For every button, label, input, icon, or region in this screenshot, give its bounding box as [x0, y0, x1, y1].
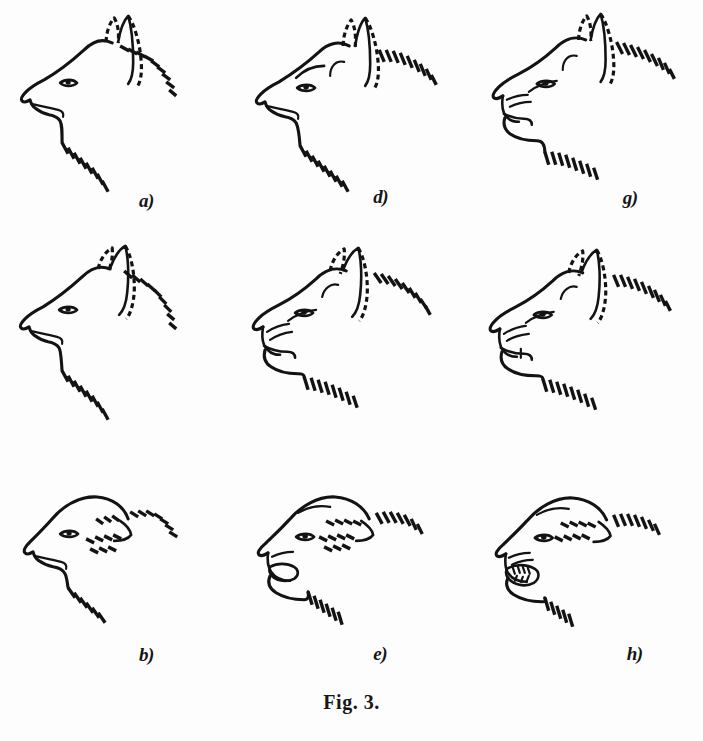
nose-wrinkles-g: [507, 95, 531, 107]
nose-wrinkle-f: [272, 552, 293, 557]
forehead-arc-d: [330, 62, 344, 76]
dog-head-f: [234, 457, 468, 686]
mouth-open-f: [270, 564, 298, 581]
eye-a: [60, 79, 77, 86]
ear-near-a: [106, 18, 118, 43]
brow-furrows-e: [288, 284, 338, 320]
nose-wrinkles-i: [509, 553, 533, 565]
panel-a: a): [0, 0, 234, 229]
back-hackles-h: [613, 275, 670, 311]
neck-hackles-f: [308, 592, 342, 625]
ear-flat-hatch-f: [319, 520, 361, 551]
back-hackles-e: [375, 273, 431, 315]
neck-hackles-g: [544, 152, 597, 180]
dog-head-h: [469, 229, 703, 458]
back-hackles-c: [130, 511, 177, 537]
panel-grid: a): [0, 0, 703, 686]
panel-d: d): [234, 0, 468, 229]
back-hackles-d: [380, 50, 437, 85]
panel-e: e): [234, 229, 468, 458]
neck-hackles-a: [62, 143, 108, 192]
brow-furrows-h: [525, 286, 576, 322]
figure-caption: Fig. 3.: [0, 691, 703, 714]
nose-wrinkles-h: [504, 326, 529, 341]
eye-b: [59, 306, 77, 313]
panel-h: h): [469, 229, 703, 458]
panel-c: c): [0, 457, 234, 686]
dog-head-c: [0, 457, 234, 686]
back-hackles-g: [616, 42, 674, 79]
head-outline-d: [257, 43, 350, 146]
panel-label-a: a): [139, 190, 154, 212]
ear-far-front-e: [343, 248, 361, 317]
back-hackles-a: [120, 46, 176, 96]
back-hackles-b: [124, 271, 176, 329]
head-outline-b: [20, 267, 110, 370]
head-top-h: [490, 271, 583, 332]
ear-flat-hatch-c: [86, 516, 121, 553]
neck-hackles-b: [62, 370, 108, 419]
dog-head-d: [234, 0, 468, 229]
teeth-i: [513, 567, 530, 582]
head-top-e: [254, 269, 347, 330]
eye-f: [296, 533, 314, 540]
dog-head-b: [0, 229, 234, 458]
neck-hackles-i: [544, 598, 572, 627]
eye-c: [60, 531, 78, 538]
dog-head-i: [469, 457, 703, 686]
dog-head-e: [234, 229, 468, 458]
ear-tip-i: [593, 522, 610, 542]
eye-d: [297, 84, 315, 91]
head-outline-a: [21, 41, 112, 143]
back-hackles-f: [377, 512, 423, 534]
figure-dog-expressions: a): [0, 0, 703, 741]
neck-hackles-c: [68, 588, 105, 623]
ear-far-front-g: [590, 14, 605, 82]
back-hackles-i: [613, 514, 659, 535]
neck-hackles-h: [542, 378, 595, 409]
head-top-i: [496, 498, 606, 557]
panel-f: f): [234, 457, 468, 686]
dog-head-g: [469, 0, 703, 229]
lower-jaw-g: [504, 118, 545, 152]
ear-far-front-d: [355, 18, 370, 86]
lower-jaw-h: [501, 351, 543, 378]
dog-head-a: [0, 0, 234, 229]
panel-b: b): [0, 229, 234, 458]
panel-g: g): [469, 0, 703, 229]
neck-hackles-d: [300, 146, 348, 192]
nose-wrinkles-e: [267, 324, 292, 340]
ear-far-front-h: [581, 250, 599, 319]
neck-hackles-e: [304, 376, 357, 407]
lower-jaw-e: [265, 349, 305, 376]
head-top-g: [493, 38, 586, 99]
ear-flat-hatch-i: [554, 522, 595, 541]
eye-i: [534, 534, 552, 541]
panel-label-g: g): [623, 187, 638, 209]
panel-i: i): [469, 457, 703, 686]
panel-label-d: d): [373, 186, 388, 208]
head-outline-c: [24, 497, 128, 588]
